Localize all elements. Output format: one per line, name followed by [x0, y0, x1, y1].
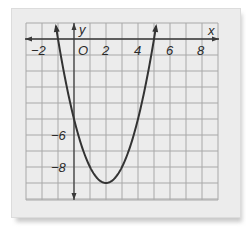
curve-right-arrow-icon	[152, 24, 158, 32]
x-tick-label-2: 2	[101, 43, 110, 58]
y-axis-up-arrow-icon	[72, 23, 77, 30]
coordinate-plane: x y O −2 2 4 6 8 −6 −8	[0, 0, 249, 230]
y-tick-label-neg8: −8	[51, 160, 67, 175]
x-axis-label: x	[207, 23, 215, 38]
y-axis-label: y	[78, 22, 87, 37]
x-tick-label-4: 4	[134, 43, 141, 58]
y-tick-label-neg6: −6	[51, 128, 67, 143]
x-tick-label-8: 8	[197, 43, 205, 58]
x-tick-label-6: 6	[166, 43, 174, 58]
origin-label: O	[78, 43, 88, 58]
curve-left-arrow-icon	[54, 24, 60, 32]
x-tick-label-neg2: −2	[31, 43, 47, 58]
